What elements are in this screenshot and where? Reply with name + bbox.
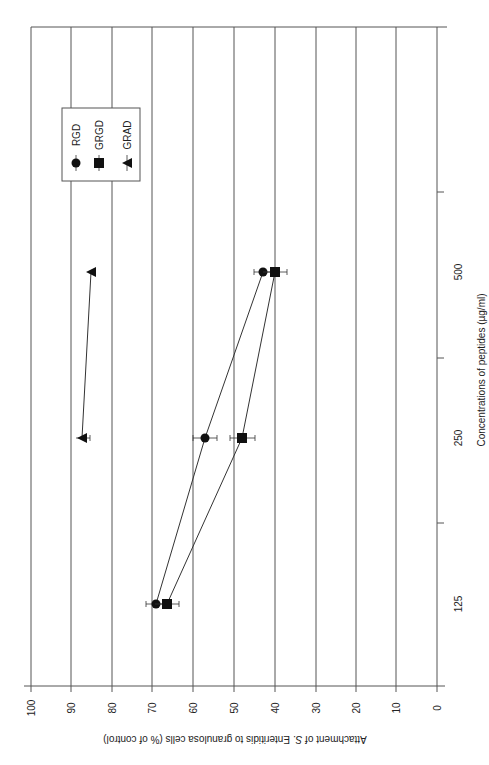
value-axis-title: Attachment of S. Enteritidis to granulos… xyxy=(103,734,366,745)
category-label-500: 500 xyxy=(453,263,464,280)
legend-label-grad: GRAD xyxy=(122,121,133,150)
tick-label-20: 20 xyxy=(351,702,362,714)
legend-label-rgd: RGD xyxy=(71,124,82,146)
tick-label-30: 30 xyxy=(311,702,322,714)
series-grgd-line xyxy=(167,272,275,604)
circle-marker xyxy=(201,434,210,443)
tick-label-10: 10 xyxy=(391,702,402,714)
tick-label-40: 40 xyxy=(270,702,281,714)
tick-label-100: 100 xyxy=(26,699,37,716)
series-grad-line xyxy=(82,272,91,438)
legend-circle-icon xyxy=(72,159,81,168)
series-grad xyxy=(76,267,96,443)
tick-label-0: 0 xyxy=(432,705,443,711)
category-axis-labels: 125 250 500 xyxy=(453,263,464,612)
series-grgd xyxy=(155,267,287,609)
value-axis-labels: 100 90 80 70 60 50 40 30 20 10 0 xyxy=(26,699,443,716)
category-label-250: 250 xyxy=(453,429,464,446)
legend-square-icon xyxy=(94,158,104,168)
category-axis-title: Concentrations of peptides (µg/ml) xyxy=(476,293,487,446)
tick-label-90: 90 xyxy=(66,702,77,714)
tick-label-50: 50 xyxy=(229,702,240,714)
legend: RGD GRGD GRAD xyxy=(62,108,140,181)
tick-label-60: 60 xyxy=(188,702,199,714)
tick-label-70: 70 xyxy=(147,702,158,714)
square-marker xyxy=(237,433,247,443)
category-label-125: 125 xyxy=(453,595,464,612)
square-marker xyxy=(162,599,172,609)
legend-label-grgd: GRGD xyxy=(94,120,105,150)
tick-label-80: 80 xyxy=(107,702,118,714)
square-marker xyxy=(270,267,280,277)
chart-canvas: 100 90 80 70 60 50 40 30 20 10 0 Attachm… xyxy=(0,0,489,765)
